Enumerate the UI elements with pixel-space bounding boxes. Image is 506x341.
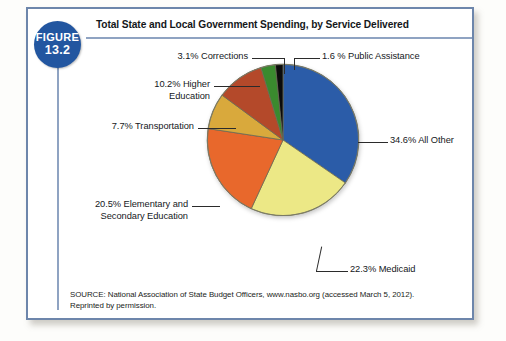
leader-public-assistance-h	[294, 58, 320, 59]
source-line-1: SOURCE: National Association of State Bu…	[70, 289, 450, 300]
leader-transportation	[198, 128, 236, 129]
figure-title: Total State and Local Government Spendin…	[96, 19, 458, 31]
leader-corrections-h	[252, 58, 285, 59]
callout-elementary-secondary: 20.5% Elementary and Secondary Education	[38, 199, 188, 223]
pie-svg	[204, 61, 362, 219]
badge-stem	[57, 65, 60, 310]
callout-medicaid: 22.3% Medicaid	[350, 264, 450, 276]
leader-higher-education	[214, 86, 260, 87]
callout-corrections: 3.1% Corrections	[138, 51, 248, 63]
callout-all-other: 34.6% All Other	[390, 135, 472, 147]
leader-public-assistance-v	[294, 58, 295, 70]
figure-root: FIGURE 13.2 Total State and Local Govern…	[0, 0, 506, 341]
figure-badge: FIGURE 13.2	[34, 21, 81, 68]
source-note: SOURCE: National Association of State Bu…	[70, 289, 450, 312]
figure-badge-number: 13.2	[45, 44, 71, 57]
chart-stage: 3.1% Corrections 1.6 % Public Assistance…	[28, 39, 472, 284]
callout-higher-education: 10.2% Higher Education	[102, 79, 210, 103]
callout-transportation: 7.7% Transportation	[66, 121, 194, 133]
leader-medicaid-h	[316, 271, 348, 272]
source-line-2: Reprinted by permission.	[70, 300, 450, 311]
callout-public-assistance: 1.6 % Public Assistance	[322, 51, 472, 63]
pie-chart	[204, 61, 362, 219]
leader-elementary-secondary	[192, 206, 220, 207]
figure-panel: FIGURE 13.2 Total State and Local Govern…	[26, 7, 474, 320]
leader-corrections-v	[284, 58, 285, 74]
leader-all-other	[358, 142, 388, 143]
leader-medicaid-v	[316, 246, 322, 271]
